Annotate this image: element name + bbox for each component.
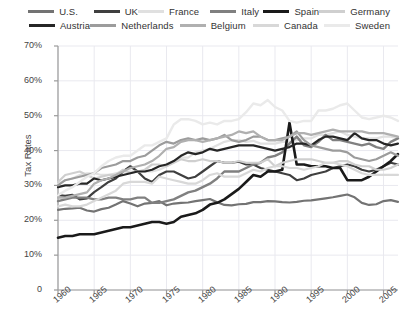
- x-tick-label: 1960: [51, 284, 73, 305]
- x-tick-label: 1990: [268, 284, 290, 305]
- x-tick-label: 2005: [377, 284, 399, 305]
- x-tick-label: 1995: [304, 284, 326, 305]
- y-axis-title: Tax Rates: [22, 116, 33, 196]
- x-tick-label: 1975: [160, 284, 182, 305]
- x-tick-label: 2000: [340, 284, 362, 305]
- x-tick-label: 1970: [123, 284, 145, 305]
- x-tick-label: 1980: [196, 284, 218, 305]
- x-tick-label: 1985: [232, 284, 254, 305]
- x-tick-label: 1965: [87, 284, 109, 305]
- tax-rates-line-chart: U.S.UKFranceItalySpainGermanyAustriaNeth…: [0, 0, 408, 326]
- x-axis-tick-labels: 1960196519701975198019851990199520002005: [0, 0, 408, 326]
